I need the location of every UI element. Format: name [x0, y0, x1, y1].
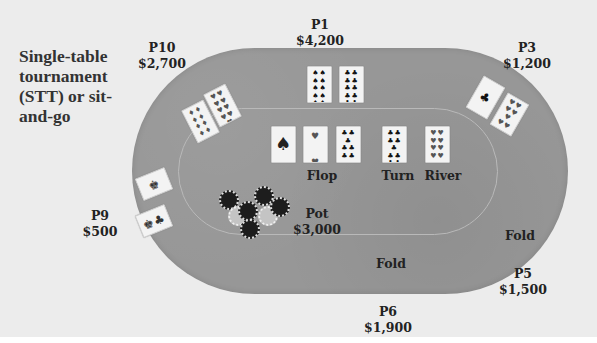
diagram-caption: Single-table tournament (STT) or sit-and… [19, 46, 129, 126]
p1-card-1: ♠♠ ♠♠ ♠♠ ♠♠ ♠♠ [307, 66, 332, 103]
player-p10-label: P10 $2,700 [127, 40, 197, 72]
player-p5-label: P5 $1,500 [488, 266, 558, 298]
turn-label: Turn [378, 168, 418, 184]
club-pips-icon: ♣♣ ♣ ♣♣ ♣♣ [340, 130, 357, 159]
player-p5-id: P5 [514, 266, 532, 281]
board-card-river: ♥♥ ♥♥ ♥♥ ♥♥ [425, 126, 450, 163]
player-p1-label: P1 $4,200 [290, 17, 350, 49]
player-p9-label: P9 $500 [70, 208, 130, 240]
pot-title: Pot [305, 206, 328, 221]
player-p3-stack: $1,200 [492, 56, 562, 72]
p5-fold-label: Fold [498, 228, 542, 244]
player-p1-id: P1 [311, 17, 329, 32]
player-p6-id: P6 [379, 304, 397, 319]
heart-pips-icon: ♥♥ [307, 130, 324, 159]
club-pips-icon: ♣♣ ♣♣♣ ♣♣ ♣♣♣ [386, 130, 403, 159]
flop-label: Flop [300, 168, 344, 184]
player-p6-stack: $1,900 [353, 320, 423, 336]
board-card-flop-2: ♥♥ [303, 126, 328, 163]
player-p3-id: P3 [518, 40, 536, 55]
pot-label: Pot $3,000 [282, 206, 352, 238]
king-club-face-icon: ♚♣ [140, 209, 168, 233]
player-p6-label: P6 $1,900 [353, 304, 423, 336]
player-p9-id: P9 [91, 208, 109, 223]
club-pips-icon: ♣♣ ♣♣ ♣♣ ♣♣ ♣♣ [343, 70, 360, 99]
river-label: River [420, 168, 466, 184]
spade-ace-icon: ♠ [275, 130, 292, 159]
heart-pips-icon: ♥♥ ♥♥ ♥♥ ♥♥ [429, 130, 446, 159]
p1-card-2: ♣♣ ♣♣ ♣♣ ♣♣ ♣♣ [339, 66, 364, 103]
chip-icon [238, 201, 258, 221]
player-p10-stack: $2,700 [127, 56, 197, 72]
player-p1-stack: $4,200 [290, 33, 350, 49]
bottom-band [0, 337, 597, 343]
player-p5-stack: $1,500 [488, 282, 558, 298]
player-p3-label: P3 $1,200 [492, 40, 562, 72]
king-face-icon: ♚ [140, 172, 168, 196]
pot-amount: $3,000 [282, 222, 352, 238]
spade-pips-icon: ♠♠ ♠♠ ♠♠ ♠♠ ♠♠ [311, 70, 328, 99]
board-card-turn: ♣♣ ♣♣♣ ♣♣ ♣♣♣ [382, 126, 407, 163]
player-p10-id: P10 [149, 40, 176, 55]
chip-icon [240, 219, 260, 239]
board-card-flop-3: ♣♣ ♣ ♣♣ ♣♣ [336, 126, 361, 163]
player-p9-stack: $500 [70, 224, 130, 240]
p6-fold-label: Fold [369, 256, 413, 272]
board-card-flop-1: ♠ [271, 126, 296, 163]
